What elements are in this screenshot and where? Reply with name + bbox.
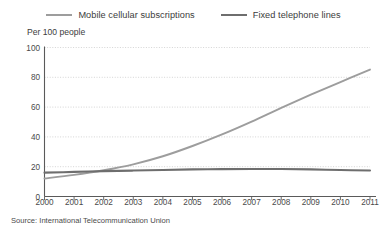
- x-tick-label-2011: 2011: [361, 198, 379, 207]
- x-tick-label-2001: 2001: [65, 198, 83, 207]
- x-axis-tick-labels: 2000200120022003200420052006200720082009…: [0, 198, 387, 212]
- plot-area: 020406080100 200020012002200320042005200…: [0, 0, 387, 233]
- x-tick-label-2006: 2006: [213, 198, 231, 207]
- y-tick-label-40: 40: [18, 132, 40, 141]
- x-tick-label-2003: 2003: [124, 198, 142, 207]
- x-tick-label-2009: 2009: [302, 198, 320, 207]
- x-tick-label-2000: 2000: [35, 198, 53, 207]
- x-tick-label-2005: 2005: [183, 198, 201, 207]
- x-tick-label-2008: 2008: [272, 198, 290, 207]
- x-tick-label-2010: 2010: [331, 198, 349, 207]
- chart-figure: Mobile cellular subscriptions Fixed tele…: [0, 0, 387, 233]
- y-tick-label-20: 20: [18, 162, 40, 171]
- y-tick-label-60: 60: [18, 103, 40, 112]
- series-line-fixed-telephone-lines: [45, 169, 371, 173]
- series-line-mobile-cellular-subscriptions: [45, 70, 371, 179]
- x-tick-label-2007: 2007: [243, 198, 261, 207]
- x-tick-label-2002: 2002: [95, 198, 113, 207]
- x-tick-label-2004: 2004: [154, 198, 172, 207]
- y-tick-label-100: 100: [18, 43, 40, 52]
- source-note: Source: International Telecommunication …: [11, 216, 170, 225]
- y-tick-label-80: 80: [18, 73, 40, 82]
